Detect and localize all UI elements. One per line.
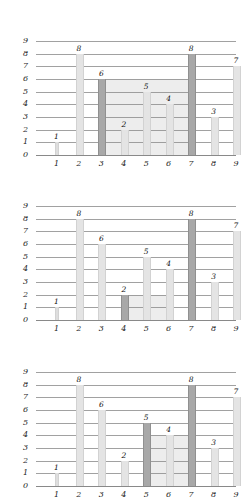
gridline-y-5 — [36, 423, 236, 424]
x-axis-tick-label: 2 — [73, 491, 85, 499]
y-axis-tick-label: 2 — [16, 126, 28, 134]
figure-sheet: 0123456789118263245546873879 01234567891… — [0, 0, 243, 503]
y-axis-tick-label: 6 — [16, 75, 28, 83]
bar — [98, 410, 106, 486]
bar-value-label: 7 — [229, 57, 243, 65]
bar-value-label: 8 — [72, 376, 86, 384]
y-axis-tick-label: 3 — [16, 113, 28, 121]
bar — [76, 54, 84, 155]
gridline-y-1 — [36, 473, 236, 474]
y-axis-tick-label: 6 — [16, 240, 28, 248]
bar-value-label: 4 — [162, 426, 176, 434]
y-axis-tick-label: 3 — [16, 444, 28, 452]
y-axis-tick-label: 5 — [16, 253, 28, 261]
gridline-y-9 — [36, 206, 236, 207]
y-axis-tick-label: 6 — [16, 406, 28, 414]
bar-value-label: 4 — [162, 95, 176, 103]
y-axis-tick-label: 8 — [16, 215, 28, 223]
gridline-y-3 — [36, 448, 236, 449]
x-axis-tick-label: 3 — [95, 160, 107, 168]
gridline-y-9 — [36, 41, 236, 42]
bar-value-label: 8 — [184, 210, 198, 218]
bar-value-label: 6 — [94, 70, 108, 78]
chart-panel-3: 0123456789118263245546873879 — [0, 339, 243, 503]
y-axis-tick-label: 7 — [16, 393, 28, 401]
y-axis-tick-label: 8 — [16, 50, 28, 58]
bar — [143, 92, 151, 155]
gridline-y-5 — [36, 257, 236, 258]
bar-value-label: 6 — [94, 401, 108, 409]
bar-value-label: 8 — [184, 376, 198, 384]
y-axis-tick-label: 2 — [16, 291, 28, 299]
y-axis-tick-label: 1 — [16, 469, 28, 477]
y-axis-tick-label: 3 — [16, 278, 28, 286]
x-axis-tick-label: 8 — [208, 160, 220, 168]
bar-value-label: 8 — [184, 45, 198, 53]
bar — [143, 257, 151, 320]
x-axis-tick-label: 5 — [140, 160, 152, 168]
gridline-y-0 — [36, 320, 236, 321]
bar-value-label: 1 — [49, 298, 63, 306]
x-axis-tick-label: 5 — [140, 491, 152, 499]
bar — [211, 282, 219, 320]
x-axis-tick-label: 7 — [185, 325, 197, 333]
x-axis-tick-label: 3 — [95, 491, 107, 499]
x-axis-tick-label: 3 — [95, 325, 107, 333]
bar — [233, 397, 241, 486]
bar — [143, 423, 151, 486]
y-axis-tick-label: 0 — [16, 151, 28, 159]
bar-value-label: 5 — [139, 414, 153, 422]
bar — [233, 66, 241, 155]
bar-value-label: 7 — [229, 388, 243, 396]
gridline-y-3 — [36, 282, 236, 283]
bar — [188, 54, 196, 155]
bar — [121, 461, 129, 486]
gridline-y-2 — [36, 461, 236, 462]
bar — [55, 142, 59, 155]
y-axis-tick-label: 5 — [16, 419, 28, 427]
x-axis-tick-label: 4 — [118, 325, 130, 333]
bar-value-label: 2 — [117, 452, 131, 460]
x-axis-tick-label: 2 — [73, 160, 85, 168]
bar-value-label: 3 — [207, 273, 221, 281]
gridline-y-4 — [36, 435, 236, 436]
bar-value-label: 7 — [229, 222, 243, 230]
bar-value-label: 5 — [139, 83, 153, 91]
bar-value-label: 5 — [139, 248, 153, 256]
bar — [98, 79, 106, 155]
gridline-y-8 — [36, 54, 236, 55]
x-axis-tick-label: 1 — [50, 491, 62, 499]
chart-panel-1: 0123456789118263245546873879 — [0, 0, 243, 170]
bar — [121, 130, 129, 155]
bar-value-label: 2 — [117, 286, 131, 294]
x-axis-tick-label: 9 — [230, 160, 242, 168]
bar — [76, 385, 84, 486]
bar-value-label: 8 — [72, 45, 86, 53]
bar-value-label: 4 — [162, 260, 176, 268]
bar — [166, 269, 174, 320]
y-axis-tick-label: 0 — [16, 482, 28, 490]
bar-value-label: 8 — [72, 210, 86, 218]
y-axis-tick-label: 1 — [16, 303, 28, 311]
bar — [166, 104, 174, 155]
x-axis-tick-label: 7 — [185, 160, 197, 168]
gridline-y-7 — [36, 66, 236, 67]
plot-area-3: 0123456789118263245546873879 — [0, 339, 243, 503]
x-axis-tick-label: 2 — [73, 325, 85, 333]
x-axis-tick-label: 5 — [140, 325, 152, 333]
gridline-y-6 — [36, 244, 236, 245]
x-axis-tick-label: 9 — [230, 325, 242, 333]
gridline-y-7 — [36, 397, 236, 398]
y-axis-tick-label: 8 — [16, 381, 28, 389]
bar-value-label: 1 — [49, 133, 63, 141]
y-axis-tick-label: 4 — [16, 265, 28, 273]
bar — [188, 219, 196, 320]
bar-value-label: 2 — [117, 121, 131, 129]
gridline-y-8 — [36, 385, 236, 386]
gridline-y-7 — [36, 231, 236, 232]
gridline-y-9 — [36, 372, 236, 373]
gridline-y-4 — [36, 269, 236, 270]
bar-value-label: 3 — [207, 439, 221, 447]
x-axis-tick-label: 6 — [163, 325, 175, 333]
x-axis-tick-label: 8 — [208, 325, 220, 333]
